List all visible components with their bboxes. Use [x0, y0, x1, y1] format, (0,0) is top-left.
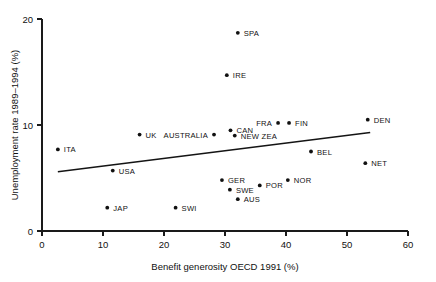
data-point-marker	[233, 134, 237, 138]
y-axis-title: Unemployment rate 1989–1994 (%)	[9, 50, 20, 201]
data-point-marker	[105, 206, 109, 210]
data-point-label: FIN	[295, 119, 308, 128]
x-tick-label: 10	[98, 239, 109, 250]
data-point-marker	[111, 169, 115, 173]
x-tick-label: 40	[281, 239, 292, 250]
data-point-label: AUS	[244, 195, 260, 204]
x-tick-label: 0	[39, 239, 44, 250]
data-point-label: IRE	[233, 71, 246, 80]
data-point-marker	[236, 197, 240, 201]
data-point-label: GER	[228, 176, 245, 185]
data-point-marker	[56, 147, 60, 151]
data-point-label: NOR	[294, 176, 312, 185]
data-point-label: POR	[266, 181, 283, 190]
data-point-label: ITA	[64, 145, 77, 154]
x-tick-label: 30	[220, 239, 231, 250]
data-point-marker	[225, 73, 229, 77]
axis-ticks	[37, 19, 408, 236]
data-point-label: NEW ZEA	[241, 132, 278, 141]
data-point-marker	[363, 161, 367, 165]
data-point-marker	[228, 188, 232, 192]
data-point-marker	[309, 150, 313, 154]
data-point-label: BEL	[317, 148, 332, 157]
data-point-marker	[258, 184, 262, 188]
data-point-label: SPA	[244, 29, 260, 38]
y-tick-label: 0	[28, 226, 33, 237]
data-point-label: USA	[119, 167, 136, 176]
scatter-plot-figure: 010203040506001020 ITAJAPUSAUKSWIAUSTRAL…	[0, 0, 436, 282]
x-tick-label: 60	[403, 239, 414, 250]
axis-tick-labels: 010203040506001020	[22, 14, 413, 251]
data-points: ITAJAPUSAUKSWIAUSTRALIAGERIRESWECANNEW Z…	[56, 29, 391, 213]
data-point-label: FRA	[256, 119, 273, 128]
data-point-marker	[229, 128, 233, 132]
x-tick-label: 50	[342, 239, 353, 250]
data-point-marker	[174, 206, 178, 210]
data-point-marker	[220, 178, 224, 182]
data-point-label: NET	[371, 159, 387, 168]
axis-titles: Benefit generosity OECD 1991 (%)Unemploy…	[9, 50, 299, 272]
y-tick-label: 20	[22, 14, 33, 25]
y-tick-label: 10	[22, 120, 33, 131]
x-tick-label: 20	[159, 239, 170, 250]
data-point-marker	[212, 133, 216, 137]
data-point-label: AUSTRALIA	[164, 131, 209, 140]
data-point-marker	[236, 31, 240, 35]
data-point-marker	[366, 118, 370, 122]
x-axis-title: Benefit generosity OECD 1991 (%)	[151, 261, 298, 272]
plot-canvas: 010203040506001020 ITAJAPUSAUKSWIAUSTRAL…	[0, 0, 436, 282]
data-point-label: SWI	[182, 204, 197, 213]
data-point-marker	[138, 133, 142, 137]
data-point-marker	[286, 178, 290, 182]
data-point-label: DEN	[374, 116, 391, 125]
data-point-marker	[276, 121, 280, 125]
axes	[42, 19, 408, 231]
data-point-label: JAP	[113, 204, 128, 213]
data-point-marker	[287, 121, 291, 125]
data-point-label: UK	[146, 131, 157, 140]
data-point-label: SWE	[236, 186, 254, 195]
